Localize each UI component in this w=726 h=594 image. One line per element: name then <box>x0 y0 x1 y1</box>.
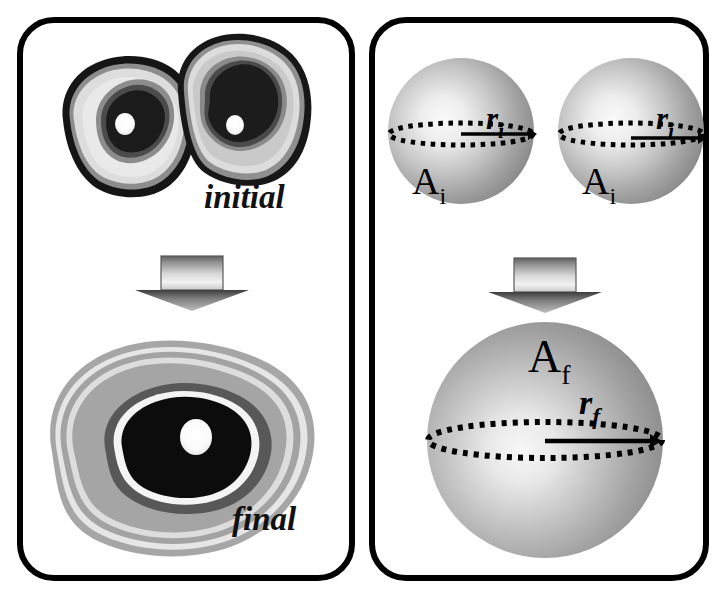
blob-nucleus-highlight <box>180 419 212 455</box>
final-sphere: Af rf <box>427 322 663 558</box>
sphere-body <box>558 58 704 204</box>
initial-cell-2 <box>178 34 312 186</box>
cell1-nucleus-highlight <box>115 113 135 135</box>
initial-stage-label: initial <box>204 179 286 215</box>
fusion-diagram-figure: initial final ri <box>0 0 726 594</box>
arrow-shaft <box>514 258 576 292</box>
final-stage-label: final <box>232 501 297 537</box>
arrow-shaft <box>161 256 223 290</box>
cell2-nucleus-highlight <box>226 115 244 135</box>
sphere-body <box>388 58 534 204</box>
